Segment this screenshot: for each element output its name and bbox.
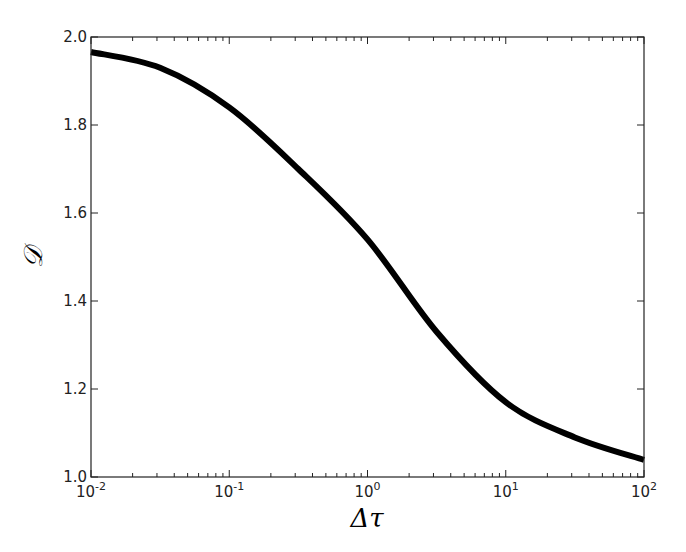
- x-tick-label: 10-2: [76, 480, 106, 501]
- x-tick-label: 100: [354, 480, 380, 501]
- y-tick-label: 1.4: [63, 292, 87, 310]
- x-tick-label: 10-1: [214, 480, 244, 501]
- y-tick-label: 2.0: [63, 28, 87, 46]
- x-tick-label: 101: [493, 480, 519, 501]
- data-line: [91, 52, 644, 460]
- x-axis-label: Δτ: [349, 503, 384, 533]
- chart: 1.01.21.41.61.82.0 10-210-1100101102 Δτ …: [0, 0, 686, 552]
- plot-frame: [91, 37, 644, 477]
- y-tick-label: 1.2: [63, 380, 87, 398]
- minor-ticks: [133, 37, 638, 477]
- y-tick-labels: 1.01.21.41.61.82.0: [63, 28, 87, 486]
- x-tick-label: 102: [631, 480, 657, 501]
- major-ticks: [91, 37, 644, 477]
- y-tick-label: 1.8: [63, 116, 87, 134]
- y-tick-label: 1.6: [63, 204, 87, 222]
- x-tick-labels: 10-210-1100101102: [76, 480, 657, 501]
- y-axis-label: 𝒟: [18, 243, 48, 268]
